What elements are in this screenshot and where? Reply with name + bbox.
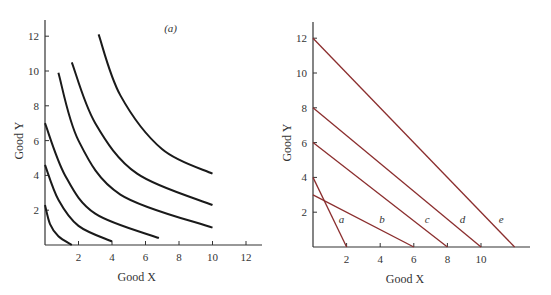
x-tick-label: 4	[377, 253, 383, 265]
y-tick-label: 8	[302, 102, 308, 114]
x-tick-label: 8	[445, 253, 451, 265]
y-tick-label: 6	[34, 135, 40, 147]
x-tick-label: 2	[344, 253, 350, 265]
series-c	[313, 143, 447, 247]
y-tick-label: 4	[302, 171, 308, 183]
y-tick-label: 12	[28, 30, 39, 42]
y-tick-label: 4	[34, 169, 40, 181]
line-label-c: c	[425, 213, 430, 225]
x-tick-label: 6	[143, 251, 149, 263]
chart-canvas: 2468101224681012Good XGood Y(a) 24681024…	[0, 0, 551, 295]
line-label-a: a	[339, 213, 345, 225]
right-chart-panel: 24681024681012Good XGood Yabcde	[280, 22, 530, 286]
series-b	[313, 195, 414, 247]
y-tick-label: 6	[302, 137, 308, 149]
y-axis-label: Good Y	[12, 121, 26, 159]
x-tick-label: 12	[241, 251, 252, 263]
y-tick-label: 10	[296, 67, 308, 79]
series-curve-1	[45, 205, 72, 245]
x-axis-label: Good X	[118, 270, 157, 284]
x-tick-label: 2	[76, 251, 82, 263]
line-label-d: d	[460, 213, 466, 225]
series-curve-5	[72, 62, 213, 205]
y-tick-label: 10	[28, 65, 40, 77]
x-tick-label: 8	[176, 251, 182, 263]
y-axis-label: Good Y	[280, 123, 294, 161]
panel-title: (a)	[164, 22, 177, 35]
x-axis-label: Good X	[386, 272, 425, 286]
x-tick-label: 10	[476, 253, 488, 265]
series-curve-4	[58, 73, 212, 228]
y-tick-label: 2	[302, 206, 308, 218]
x-tick-label: 4	[109, 251, 115, 263]
y-tick-label: 2	[34, 204, 40, 216]
line-label-e: e	[499, 213, 504, 225]
x-tick-label: 10	[207, 251, 219, 263]
series-curve-2	[45, 165, 112, 242]
line-label-b: b	[379, 213, 385, 225]
series-d	[313, 108, 481, 247]
y-tick-label: 8	[34, 100, 40, 112]
series-curve-3	[45, 123, 159, 238]
x-tick-label: 6	[411, 253, 417, 265]
left-chart-panel: 2468101224681012Good XGood Y(a)	[12, 20, 262, 284]
y-tick-label: 12	[296, 32, 307, 44]
